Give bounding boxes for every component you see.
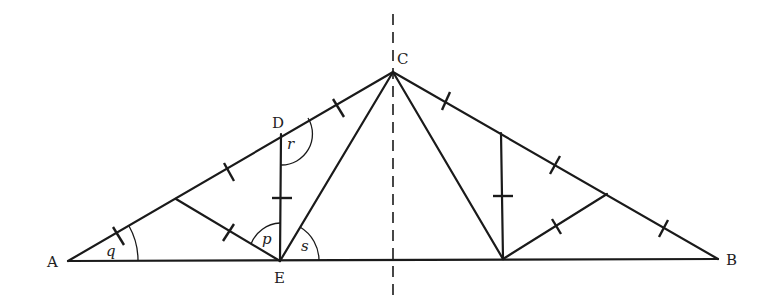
point-label-D: D <box>272 114 284 132</box>
tick-mark <box>550 156 560 174</box>
strut-right-mid-foot <box>503 194 607 259</box>
angle-label-p: p <box>262 230 272 248</box>
point-label-C: C <box>397 50 408 68</box>
point-label-B: B <box>726 251 737 269</box>
edge-AB-base <box>68 259 718 261</box>
truss-diagram: A B C D E q p r s <box>0 0 768 305</box>
angle-arc-q <box>129 226 138 261</box>
point-label-E: E <box>274 269 285 287</box>
strut-CE <box>280 72 393 261</box>
angle-label-r: r <box>287 135 295 153</box>
point-label-A: A <box>46 253 58 271</box>
angle-label-s: s <box>301 237 309 255</box>
angle-arc-r <box>281 118 312 165</box>
angle-label-q: q <box>106 242 116 260</box>
strut-C-right-foot <box>393 72 503 259</box>
